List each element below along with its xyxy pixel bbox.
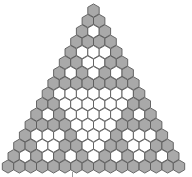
hex-cell [128, 160, 139, 173]
hex-cell [139, 160, 150, 173]
hex-cell [116, 160, 127, 173]
hex-cell [105, 160, 116, 173]
hex-cell [37, 160, 48, 173]
hex-cell [48, 160, 59, 173]
hexagon-triangle [0, 0, 192, 177]
hex-cell [94, 160, 105, 173]
hex-cell [82, 160, 93, 173]
hex-cell [14, 160, 25, 173]
hex-cell [151, 160, 162, 173]
hex-cell [25, 160, 36, 173]
hex-cell [2, 160, 13, 173]
tick-mark [72, 172, 73, 177]
hex-cell [59, 160, 70, 173]
hex-cell [162, 160, 173, 173]
hex-cell [173, 160, 184, 173]
